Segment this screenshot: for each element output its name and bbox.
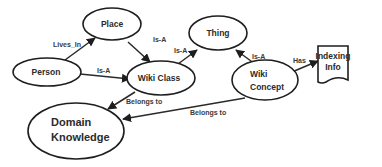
- edge-label-wikiclass-isa: Is-A: [174, 47, 187, 54]
- node-thing: Thing: [189, 16, 247, 50]
- edge-label-wikiconcept-belongs: Belongs to: [190, 109, 226, 117]
- node-label-wiki-concept-line2: Concept: [250, 82, 284, 92]
- node-label-wiki-class: Wiki Class: [138, 73, 181, 83]
- edge-label-has: Has: [293, 57, 306, 64]
- node-label-indexing-line2: Info: [325, 62, 341, 72]
- node-label-indexing-line1: Indexing: [316, 51, 351, 61]
- node-label-person: Person: [32, 67, 61, 77]
- edge-label-wikiclass-belongs: Belongs to: [126, 98, 162, 106]
- node-person: Person: [13, 58, 81, 86]
- edge-label-lives-in: Lives_In: [53, 41, 81, 48]
- edge-label-person-isa: Is-A: [97, 67, 110, 74]
- node-indexing-info: Indexing Info: [316, 46, 351, 83]
- node-label-domain-line1: Domain: [51, 116, 92, 128]
- edge-place-wikiclass: [128, 42, 150, 62]
- concept-diagram: Lives_In Is-A Is-A Is-A Is-A Has Belongs…: [0, 0, 382, 167]
- edge-label-wikiconcept-isa: Is-A: [252, 53, 265, 60]
- node-label-thing: Thing: [206, 28, 229, 38]
- edge-label-place-isa: Is-A: [153, 36, 166, 43]
- node-label-wiki-concept-line1: Wiki: [250, 69, 267, 79]
- edge-person-wikiclass: [80, 74, 130, 79]
- node-wiki-concept: Wiki Concept: [232, 60, 298, 100]
- node-label-place: Place: [101, 19, 123, 29]
- node-wiki-class: Wiki Class: [127, 61, 195, 95]
- node-label-domain-line2: Knowledge: [51, 131, 110, 143]
- node-place: Place: [83, 8, 141, 40]
- node-domain-knowledge: Domain Knowledge: [28, 103, 124, 159]
